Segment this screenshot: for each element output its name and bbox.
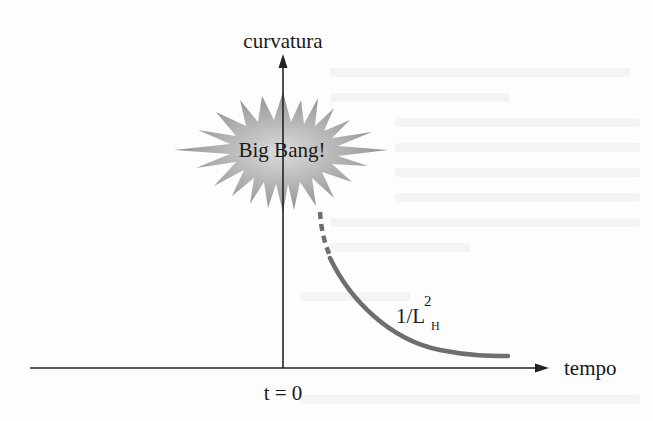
hubble-curvature-curve (320, 212, 508, 356)
big-bang-label: Big Bang! (239, 138, 326, 162)
x-axis-arrowhead (535, 364, 549, 373)
y-axis-arrowhead (279, 54, 288, 68)
curve-dashed-segment (320, 212, 330, 256)
x-axis-label: tempo (564, 356, 617, 380)
y-axis-label: curvatura (243, 29, 323, 53)
origin-label: t = 0 (264, 381, 303, 405)
curvature-vs-time-diagram: curvatura Big Bang! 1/L 2 H tempo t = 0 (0, 0, 653, 421)
curve-label-subscript: H (431, 319, 440, 333)
diagram-canvas: curvatura Big Bang! 1/L 2 H tempo t = 0 (0, 0, 653, 421)
curve-label: 1/L (396, 304, 425, 328)
curve-label-base: 1/L (396, 304, 425, 328)
curve-label-superscript: 2 (424, 293, 432, 309)
x-axis (30, 364, 549, 373)
y-axis (279, 54, 288, 368)
